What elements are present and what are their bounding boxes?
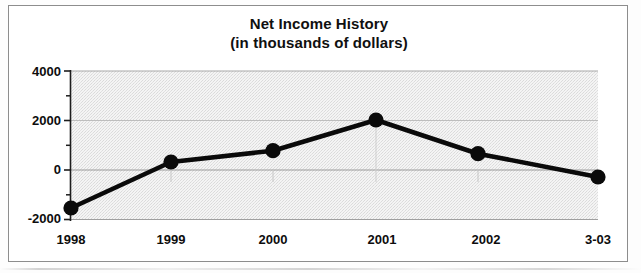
data-point-2002	[470, 146, 485, 161]
plot-background	[71, 71, 598, 220]
data-point-1999	[163, 154, 178, 169]
data-point-2001	[368, 112, 383, 127]
scan-artifact-line	[0, 268, 641, 270]
data-point-1998	[63, 200, 78, 215]
plot-canvas	[9, 6, 629, 263]
data-point-3-03	[590, 169, 605, 184]
data-point-2000	[265, 143, 280, 158]
chart-frame: Net Income History (in thousands of doll…	[8, 5, 628, 262]
chart-figure: Net Income History (in thousands of doll…	[0, 0, 641, 273]
